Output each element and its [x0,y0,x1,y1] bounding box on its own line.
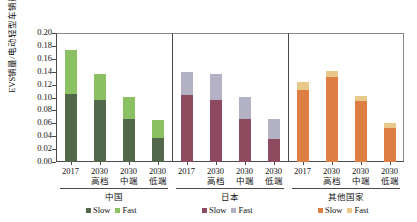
y-tick-label: 0.18 [16,40,52,50]
x-tick-mark [129,162,130,165]
x-tick-mark [216,162,217,165]
group-label: 中国 [54,190,174,202]
bar-segment-fast [268,119,280,139]
y-tick-mark [52,72,56,73]
bar-stack[interactable] [123,97,135,162]
chart-figure: EVS销量/电动轻型车销量 0.200.180.160.140.120.100.… [0,0,417,222]
legend-item[interactable]: Slow [86,205,110,215]
y-tick-mark [52,46,56,47]
y-tick-label: 0.16 [16,53,52,63]
legend-item[interactable]: Fast [115,205,136,215]
legend-swatch-icon [115,208,120,213]
bar-segment-slow [268,139,280,162]
x-tick-tier: 低端 [367,176,413,186]
bar-segment-fast [297,82,309,90]
y-tick-label: 0.10 [16,92,52,102]
legend-group: SlowFast [86,205,137,215]
x-tick-tier: 低端 [251,176,297,186]
bar-segment-slow [239,119,251,162]
legend-label: Slow [209,205,226,215]
legend-item[interactable]: Fast [231,205,252,215]
x-tick-year: 2030 [367,166,413,176]
y-tick-mark [52,98,56,99]
bar-stack[interactable] [152,120,164,162]
bar-segment-slow [65,94,77,162]
x-tick-label: 2030低端 [367,166,413,186]
plot-area [56,33,404,162]
bar-stack[interactable] [181,72,193,162]
y-tick-label: 0.12 [16,79,52,89]
x-tick-mark [361,162,362,165]
x-tick-tier: 低端 [135,176,181,186]
x-tick-mark [332,162,333,165]
group-separator [288,33,289,162]
y-tick-label: 0.14 [16,66,52,76]
legend-swatch-icon [202,208,207,213]
group-rule [60,188,168,189]
y-tick-mark [52,162,56,163]
y-tick-mark [52,123,56,124]
y-tick-mark [52,110,56,111]
group-rule [292,188,400,189]
bar-stack[interactable] [326,71,338,162]
bar-stack[interactable] [268,119,280,162]
legend-label: Fast [122,205,136,215]
legend-swatch-icon [231,208,236,213]
y-tick-label: 0.08 [16,104,52,114]
y-tick-mark [52,33,56,34]
legend-label: Fast [238,205,252,215]
legend-group: SlowFast [202,205,253,215]
y-tick-label: 0.20 [16,27,52,37]
bar-segment-slow [326,77,338,162]
legend-group: SlowFast [318,205,369,215]
legend-label: Slow [93,205,110,215]
y-tick-label: 0.00 [16,156,52,166]
bar-segment-fast [181,72,193,95]
bar-stack[interactable] [384,123,396,162]
legend-label: Fast [354,205,368,215]
x-tick-mark [245,162,246,165]
bar-stack[interactable] [239,97,251,162]
x-tick-mark [274,162,275,165]
bar-segment-slow [297,90,309,162]
bar-segment-slow [355,101,367,162]
group-separator [172,33,173,162]
group-label: 其他国家 [286,190,406,202]
y-tick-mark [52,149,56,150]
y-tick-mark [52,85,56,86]
y-tick-mark [52,136,56,137]
bar-segment-slow [210,100,222,162]
group-label: 日本 [170,190,290,202]
legend-item[interactable]: Slow [202,205,226,215]
legend-swatch-icon [347,208,352,213]
bar-segment-slow [181,95,193,162]
group-rule [176,188,284,189]
y-tick-label: 0.04 [16,130,52,140]
x-tick-mark [100,162,101,165]
x-tick-mark [390,162,391,165]
y-tick-label: 0.02 [16,143,52,153]
x-tick-mark [187,162,188,165]
x-tick-mark [158,162,159,165]
bar-segment-fast [152,120,164,138]
bar-stack[interactable] [297,82,309,162]
bar-segment-fast [123,97,135,119]
y-tick-label: 0.06 [16,117,52,127]
bar-stack[interactable] [355,96,367,162]
bar-stack[interactable] [210,74,222,162]
bar-segment-slow [123,119,135,162]
legend-item[interactable]: Fast [347,205,368,215]
legend-item[interactable]: Slow [318,205,342,215]
bar-stack[interactable] [65,50,77,162]
legend-swatch-icon [86,208,91,213]
bar-segment-slow [94,100,106,162]
bar-segment-slow [152,138,164,162]
y-tick-mark [52,59,56,60]
bar-segment-fast [239,97,251,119]
x-tick-mark [71,162,72,165]
bar-stack[interactable] [94,74,106,162]
bar-segment-fast [94,74,106,100]
bar-segment-fast [65,50,77,95]
bar-segment-fast [210,74,222,100]
bar-segment-slow [384,128,396,162]
